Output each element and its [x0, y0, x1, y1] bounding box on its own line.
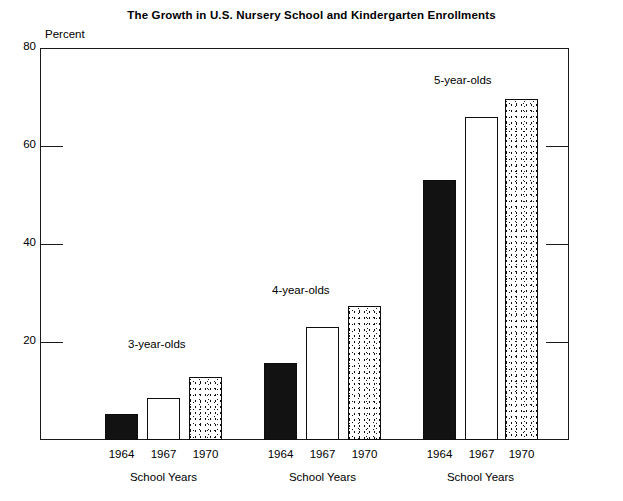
year-label: 1967 — [460, 448, 504, 460]
bar-5-year-olds-1967[interactable] — [465, 117, 498, 440]
bar-3-year-olds-1970[interactable] — [189, 377, 222, 440]
bar-chart-figure: The Growth in U.S. Nursery School and Ki… — [0, 0, 623, 501]
bar-5-year-olds-1964[interactable] — [423, 180, 456, 440]
bars-layer — [0, 48, 623, 440]
year-label: 1964 — [100, 448, 144, 460]
year-label: 1964 — [259, 448, 303, 460]
group-caption-4-year-olds: 4-year-olds — [272, 284, 330, 296]
x-axis-caption: School Years — [421, 471, 541, 483]
bar-4-year-olds-1970[interactable] — [348, 306, 381, 440]
year-label: 1967 — [142, 448, 186, 460]
group-caption-3-year-olds: 3-year-olds — [128, 338, 186, 350]
year-label: 1970 — [184, 448, 228, 460]
bar-column — [189, 48, 222, 440]
bar-column — [105, 48, 138, 440]
year-label: 1967 — [301, 448, 345, 460]
year-label: 1970 — [343, 448, 387, 460]
bar-5-year-olds-1970[interactable] — [505, 99, 538, 440]
x-axis-caption: School Years — [104, 471, 224, 483]
bar-column — [505, 48, 538, 440]
bar-column — [306, 48, 339, 440]
group-caption-5-year-olds: 5-year-olds — [434, 74, 492, 86]
bar-column — [423, 48, 456, 440]
x-axis-caption: School Years — [263, 471, 383, 483]
bar-column — [465, 48, 498, 440]
bar-3-year-olds-1967[interactable] — [147, 398, 180, 440]
chart-title: The Growth in U.S. Nursery School and Ki… — [0, 9, 623, 21]
year-label: 1970 — [500, 448, 544, 460]
y-axis-unit-label: Percent — [45, 28, 85, 40]
bar-column — [147, 48, 180, 440]
bar-column — [348, 48, 381, 440]
bar-4-year-olds-1967[interactable] — [306, 327, 339, 440]
bar-3-year-olds-1964[interactable] — [105, 414, 138, 440]
year-label: 1964 — [418, 448, 462, 460]
bar-4-year-olds-1964[interactable] — [264, 363, 297, 440]
bar-column — [264, 48, 297, 440]
